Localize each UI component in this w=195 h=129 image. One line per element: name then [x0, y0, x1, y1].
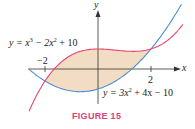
tick-label-neg2: −2 [37, 56, 48, 66]
quadratic-equation-label: y = 3x2 + 4x − 10 [103, 88, 173, 98]
cubic-equation-label: y = x3 − 2x2 + 10 [9, 38, 77, 48]
x-axis-label: x [182, 63, 186, 73]
tick-label-pos2: 2 [148, 75, 153, 85]
x-axis-arrow-icon [174, 67, 181, 72]
figure-plot [0, 0, 195, 129]
y-axis-label: y [94, 0, 98, 10]
y-axis-arrow-icon [96, 10, 101, 17]
figure-caption: FIGURE 15 [72, 111, 121, 121]
